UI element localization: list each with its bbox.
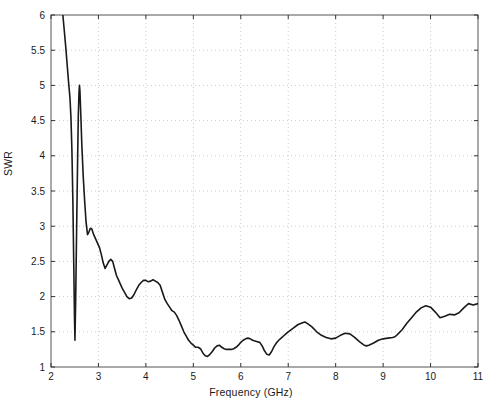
chart-figure-root: 23456789101111.522.533.544.555.56 SWR Fr… <box>0 0 502 420</box>
svg-text:4: 4 <box>143 371 149 382</box>
svg-text:2: 2 <box>48 371 54 382</box>
svg-text:5.5: 5.5 <box>31 45 45 56</box>
svg-text:8: 8 <box>333 371 339 382</box>
svg-text:11: 11 <box>473 371 484 382</box>
svg-text:4.5: 4.5 <box>31 115 45 126</box>
plot-background <box>0 0 502 420</box>
svg-text:9: 9 <box>380 371 386 382</box>
svg-text:6: 6 <box>238 371 244 382</box>
swr-vs-frequency-plot: 23456789101111.522.533.544.555.56 SWR Fr… <box>0 0 502 420</box>
svg-text:3.5: 3.5 <box>31 186 45 197</box>
svg-text:1.5: 1.5 <box>31 326 45 337</box>
svg-text:5: 5 <box>39 80 45 91</box>
y-axis-label: SWR <box>2 116 14 176</box>
svg-text:1: 1 <box>39 362 45 373</box>
svg-text:3: 3 <box>39 221 45 232</box>
svg-text:10: 10 <box>425 371 437 382</box>
x-axis-label: Frequency (GHz) <box>0 386 502 398</box>
svg-text:4: 4 <box>39 150 45 161</box>
svg-text:6: 6 <box>39 10 45 21</box>
svg-text:2.5: 2.5 <box>31 256 45 267</box>
plot-svg: 23456789101111.522.533.544.555.56 <box>0 0 502 420</box>
svg-text:3: 3 <box>96 371 102 382</box>
svg-text:5: 5 <box>191 371 197 382</box>
svg-text:2: 2 <box>39 291 45 302</box>
svg-text:7: 7 <box>285 371 291 382</box>
